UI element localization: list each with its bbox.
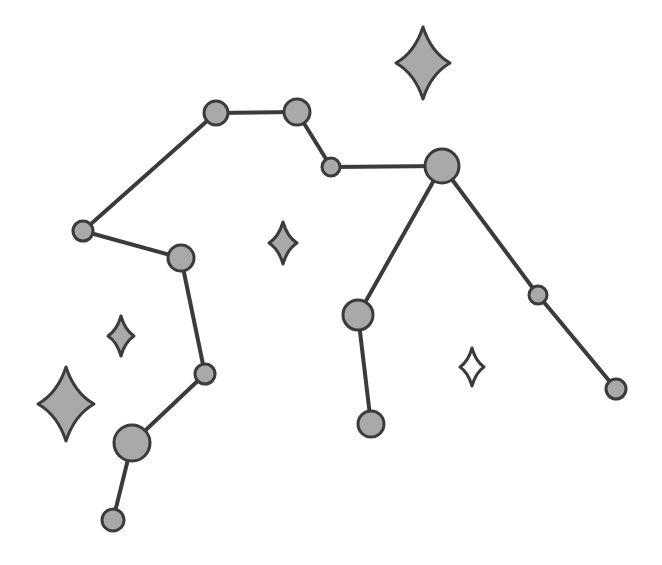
star-node-lower-west-small [195, 364, 215, 384]
star-node-east-mid [529, 286, 547, 304]
star-node-lower-left-bright [114, 425, 150, 461]
constellation-svg [0, 0, 662, 565]
star-node-bottom-center-tip [358, 411, 384, 437]
star-node-center-lower [343, 300, 373, 330]
constellation-canvas [0, 0, 662, 565]
star-node-upper-right-bend [284, 99, 310, 125]
star-node-bottom-left-tip [102, 509, 124, 531]
star-node-west-joint [73, 221, 93, 241]
star-node-west-elbow [168, 245, 194, 271]
star-node-hub-bright [425, 149, 459, 183]
star-node-upper-left-bend [204, 101, 228, 125]
star-node-east-tip [606, 379, 626, 399]
canvas-background [0, 0, 662, 565]
star-node-small-link [322, 158, 340, 176]
